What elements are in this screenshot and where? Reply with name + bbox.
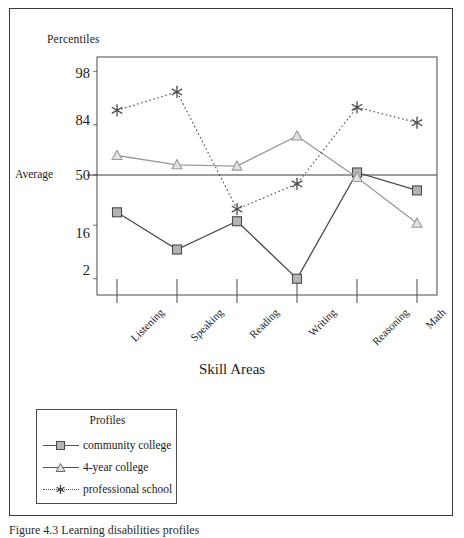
x-axis-title: Skill Areas xyxy=(0,361,464,378)
average-line-label: Average xyxy=(15,168,53,180)
y-tick-label-2: 2 xyxy=(44,262,90,279)
legend-swatch-asterisk-icon xyxy=(43,481,79,497)
y-axis-title: Percentiles xyxy=(47,33,100,45)
legend-item-community-college[interactable]: community college xyxy=(43,435,171,455)
legend-label-professional-school: professional school xyxy=(83,483,172,495)
chart-legend: Profiles community college 4-year colleg… xyxy=(36,409,177,504)
legend-swatch-square-icon xyxy=(43,437,79,453)
legend-item-professional-school[interactable]: professional school xyxy=(43,479,172,499)
legend-label-community-college: community college xyxy=(83,439,171,451)
figure-caption: Figure 4.3 Learning disabilities profile… xyxy=(9,523,199,538)
legend-item-4-year-college[interactable]: 4-year college xyxy=(43,457,148,477)
y-tick-label-84: 84 xyxy=(44,112,90,129)
y-tick-label-98: 98 xyxy=(44,65,90,82)
y-tick-label-16: 16 xyxy=(44,225,90,242)
legend-swatch-triangle-icon xyxy=(43,459,79,475)
legend-label-4-year-college: 4-year college xyxy=(83,461,148,473)
legend-title: Profiles xyxy=(37,414,178,426)
